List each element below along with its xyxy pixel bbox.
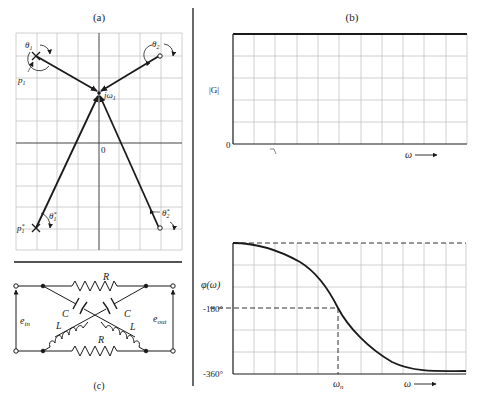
- pole-p1-conj-icon: [32, 224, 40, 232]
- omega-n-label: ωn: [333, 378, 344, 391]
- magnitude-zero-label: 0: [226, 140, 231, 150]
- tick-mark: [270, 149, 276, 154]
- theta1-label: θ1: [25, 40, 32, 51]
- magnitude-ylabel: |G|: [209, 85, 219, 95]
- theta2-label: θ2: [152, 39, 159, 50]
- input-terminal-top: [14, 284, 18, 288]
- inductor-left-icon: [43, 322, 88, 351]
- panel-c: [14, 281, 175, 356]
- phase-grid: [233, 243, 466, 374]
- resistor-bottom-icon: [72, 346, 117, 356]
- label-C-right: C: [124, 308, 131, 319]
- inductor-right-icon: [101, 322, 146, 351]
- label-R-top: R: [102, 271, 109, 282]
- label-L-right: L: [129, 321, 136, 332]
- zero-z2-icon: [158, 54, 162, 58]
- figure: (a) 0: [0, 0, 482, 399]
- label-e-out: eout: [153, 313, 167, 326]
- phase-tick-360: -360°: [203, 369, 223, 379]
- origin-label: 0: [101, 145, 106, 155]
- jw1-label: jω1: [103, 90, 116, 101]
- resistor-top-icon: [72, 281, 117, 291]
- phase-tick-180: -180°: [203, 304, 223, 314]
- phase-xlabel: ω: [404, 378, 411, 389]
- magnitude-grid: [233, 34, 467, 144]
- input-terminal-bottom: [14, 349, 18, 353]
- theta2-conj-label: θ*2: [162, 208, 169, 219]
- label-R-bottom: R: [97, 334, 104, 345]
- theta1-conj-label: θ*1: [49, 211, 56, 222]
- label-C-left: C: [62, 308, 69, 319]
- phase-plot: φ(ω) -180° -360° ωn ω: [201, 243, 466, 391]
- output-terminal-top: [171, 284, 175, 288]
- output-terminal-bottom: [171, 349, 175, 353]
- p1-conj-label: p*1: [16, 223, 25, 234]
- theta1-arrow-icon: [40, 45, 50, 54]
- capacitor-left-icon: [73, 298, 87, 314]
- panel-b: (b) |G| 0 ω: [209, 11, 467, 160]
- label-L-left: L: [55, 320, 62, 331]
- phase-ylabel: φ(ω): [201, 279, 221, 291]
- caption-c: (c): [93, 380, 104, 392]
- magnitude-xlabel: ω: [405, 149, 412, 160]
- p1-label: p1: [17, 75, 26, 86]
- panel-a: (a) 0: [16, 11, 182, 250]
- capacitor-right-icon: [103, 298, 117, 314]
- theta2-inner-arc: [144, 45, 152, 61]
- theta2-arrow-icon: [164, 44, 173, 56]
- zero-z2-conj-icon: [158, 226, 162, 230]
- caption-a: (a): [93, 11, 106, 24]
- label-e-in: ein: [20, 315, 30, 328]
- caption-b: (b): [346, 11, 359, 24]
- vectors: [36, 56, 159, 228]
- test-point-jw1: [97, 91, 101, 95]
